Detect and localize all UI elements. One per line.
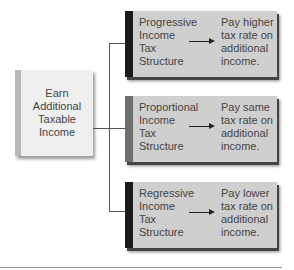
source-label: Earn Additional Taxable Income bbox=[33, 87, 81, 139]
structure-label: Progressive Income Tax Structure bbox=[139, 16, 197, 68]
regressive-box: Regressive Income Tax Structure Pay lowe… bbox=[125, 182, 277, 248]
structure-result: Pay lower tax rate on additional income. bbox=[221, 187, 273, 239]
progressive-box: Progressive Income Tax Structure Pay hig… bbox=[125, 11, 277, 77]
source-box: Earn Additional Taxable Income bbox=[15, 70, 93, 156]
connector-source bbox=[93, 128, 109, 129]
connector-top bbox=[109, 43, 125, 44]
bottom-divider bbox=[0, 267, 282, 268]
proportional-box: Proportional Income Tax Structure Pay sa… bbox=[125, 96, 277, 162]
structure-label: Regressive Income Tax Structure bbox=[139, 187, 194, 239]
connector-trunk bbox=[109, 43, 110, 211]
structure-result: Pay same tax rate on additional income. bbox=[221, 101, 273, 153]
box-accent-bar bbox=[125, 11, 133, 77]
box-accent-bar bbox=[125, 182, 133, 248]
connector-bottom bbox=[109, 211, 125, 212]
connector-middle bbox=[109, 128, 125, 129]
structure-label: Proportional Income Tax Structure bbox=[139, 101, 198, 153]
arrow-right-icon bbox=[189, 212, 213, 213]
structure-result: Pay higher tax rate on additional income… bbox=[221, 16, 274, 68]
box-accent-bar bbox=[125, 96, 133, 162]
arrow-right-icon bbox=[189, 41, 213, 42]
arrow-right-icon bbox=[189, 126, 213, 127]
